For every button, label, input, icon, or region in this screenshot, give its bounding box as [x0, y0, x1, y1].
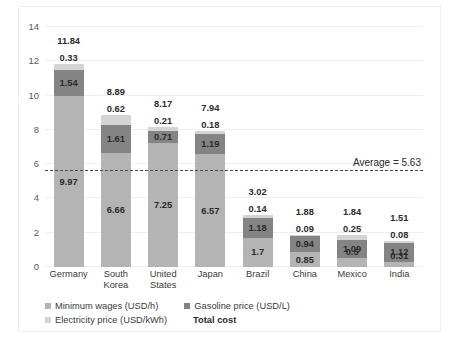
legend-label-total-cost: Total cost	[193, 315, 236, 325]
bar-segment[interactable]: 0.85	[290, 252, 320, 267]
bar-segment-value: 9.97	[54, 177, 84, 187]
bar-total-value: 1.51	[390, 213, 408, 223]
bar-segment-value: 0.25	[337, 224, 367, 234]
bar-segment-value: 0.94	[290, 239, 320, 249]
chart-legend: Minimum wages (USD/h) Gasoline price (US…	[45, 299, 423, 327]
bar-stack[interactable]: 0.141.181.7	[243, 215, 273, 267]
bar-stack[interactable]: 0.331.549.97	[54, 64, 84, 267]
x-axis-tick: India	[376, 269, 423, 280]
legend-swatch-electricity-price	[45, 317, 51, 323]
bar-stack[interactable]: 0.181.196.57	[195, 131, 225, 267]
bar-total-value: 11.84	[57, 36, 80, 46]
average-line	[45, 170, 423, 171]
bar-group: 0.331.549.9711.840.621.616.668.890.210.7…	[45, 27, 423, 267]
bar-segment[interactable]: 0.62	[101, 115, 131, 126]
y-axis-tick: 10	[28, 89, 39, 100]
bar-column[interactable]: 0.081.120.311.51	[376, 27, 423, 267]
bar-column[interactable]: 0.251.090.51.84	[329, 27, 376, 267]
chart-container: 02468101214 0.331.549.9711.840.621.616.6…	[18, 6, 441, 332]
bar-column[interactable]: 0.181.196.577.94	[187, 27, 234, 267]
bar-segment[interactable]: 1.54	[54, 70, 84, 96]
y-axis-tick: 8	[34, 123, 39, 134]
bar-segment-value: 0.62	[101, 104, 131, 114]
y-axis-tick: 4	[34, 192, 39, 203]
y-axis-tick: 0	[34, 261, 39, 272]
bar-segment-value: 1.19	[195, 139, 225, 149]
legend-label-minimum-wages: Minimum wages (USD/h)	[55, 301, 158, 311]
legend-item-gasoline-price[interactable]: Gasoline price (USD/L)	[184, 301, 290, 311]
bar-stack[interactable]: 0.090.940.85	[290, 235, 320, 267]
legend-row-1: Minimum wages (USD/h) Gasoline price (US…	[45, 299, 423, 313]
bar-segment-value: 0.21	[148, 116, 178, 126]
bar-segment-value: 1.54	[54, 78, 84, 88]
bar-segment-value: 7.25	[148, 200, 178, 210]
bar-total-value: 1.84	[343, 207, 361, 217]
bar-segment-value: 6.57	[195, 206, 225, 216]
bar-segment[interactable]: 0.5	[337, 258, 367, 267]
bar-column[interactable]: 0.090.940.851.88	[281, 27, 328, 267]
bar-segment-value: 0.18	[195, 120, 225, 130]
x-axis-tick: Germany	[45, 269, 92, 280]
bar-total-value: 3.02	[249, 187, 267, 197]
bar-segment-value: 0.5	[337, 247, 367, 257]
bar-total-value: 8.89	[107, 87, 125, 97]
bar-segment-value: 0.08	[384, 230, 414, 240]
x-axis-tick: China	[281, 269, 328, 280]
bar-segment[interactable]: 6.57	[195, 154, 225, 267]
bar-total-value: 8.17	[154, 99, 172, 109]
plot-area: 02468101214 0.331.549.9711.840.621.616.6…	[45, 27, 423, 267]
legend-item-electricity-price[interactable]: Electricity price (USD/kWh)	[45, 315, 167, 325]
x-axis-tick: Mexico	[329, 269, 376, 280]
bar-segment-value: 6.66	[101, 205, 131, 215]
bar-total-value: 1.88	[296, 207, 314, 217]
bar-segment[interactable]: 0.71	[148, 131, 178, 143]
bar-segment[interactable]: 1.19	[195, 134, 225, 154]
bar-segment-value: 0.09	[290, 224, 320, 234]
legend-swatch-minimum-wages	[45, 303, 51, 309]
average-line-label: Average = 5.63	[353, 157, 421, 168]
legend-item-total-cost[interactable]: Total cost	[193, 315, 236, 325]
bar-segment[interactable]: 0.94	[290, 236, 320, 252]
bar-segment[interactable]: 7.25	[148, 143, 178, 267]
bar-segment-value: 0.71	[148, 132, 178, 142]
bar-stack[interactable]: 0.081.120.31	[384, 241, 414, 267]
bar-segment[interactable]: 0.31	[384, 262, 414, 267]
x-axis-tick: Japan	[187, 269, 234, 280]
x-axis-labels: GermanySouth KoreaUnited StatesJapanBraz…	[45, 269, 423, 299]
legend-item-minimum-wages[interactable]: Minimum wages (USD/h)	[45, 301, 158, 311]
bar-stack[interactable]: 0.251.090.5	[337, 235, 367, 267]
bar-segment-value: 0.14	[243, 204, 273, 214]
bar-column[interactable]: 0.210.717.258.17	[140, 27, 187, 267]
x-axis-tick: Brazil	[234, 269, 281, 280]
bar-segment[interactable]: 1.61	[101, 125, 131, 153]
bar-segment[interactable]: 1.18	[243, 218, 273, 238]
bar-column[interactable]: 0.141.181.73.02	[234, 27, 281, 267]
bar-segment-value: 1.61	[101, 134, 131, 144]
x-axis-tick: South Korea	[92, 269, 139, 291]
bar-segment-value: 1.18	[243, 223, 273, 233]
y-axis-tick: 2	[34, 226, 39, 237]
legend-swatch-gasoline-price	[184, 303, 190, 309]
bar-segment-value: 0.85	[290, 255, 320, 265]
bar-segment-value: 1.7	[243, 247, 273, 257]
bar-column[interactable]: 0.621.616.668.89	[92, 27, 139, 267]
legend-row-2: Electricity price (USD/kWh) Total cost	[45, 313, 423, 327]
bar-segment[interactable]: 1.7	[243, 238, 273, 267]
bar-segment-value: 0.33	[54, 53, 84, 63]
x-axis-tick: United States	[140, 269, 187, 291]
bar-segment-value: 0.31	[384, 251, 414, 261]
legend-label-electricity-price: Electricity price (USD/kWh)	[55, 315, 167, 325]
bar-stack[interactable]: 0.621.616.66	[101, 115, 131, 267]
y-axis-tick: 14	[28, 21, 39, 32]
bar-column[interactable]: 0.331.549.9711.84	[45, 27, 92, 267]
y-axis-tick: 6	[34, 158, 39, 169]
bar-segment[interactable]: 9.97	[54, 96, 84, 267]
bar-stack[interactable]: 0.210.717.25	[148, 127, 178, 267]
bar-total-value: 7.94	[201, 103, 219, 113]
y-axis-tick: 12	[28, 55, 39, 66]
legend-label-gasoline-price: Gasoline price (USD/L)	[194, 301, 290, 311]
